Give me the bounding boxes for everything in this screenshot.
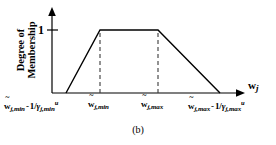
y-axis-title-line1: Degree of: [15, 21, 26, 78]
x-axis-arrowhead: [236, 89, 245, 97]
tilde-w-symbol: ~w: [88, 99, 94, 109]
subscript-jmin: j,min: [94, 103, 108, 111]
membership-function-curve: [66, 30, 220, 93]
x-axis-variable-base: w: [248, 79, 256, 91]
gamma-superscript-u: u: [241, 99, 245, 106]
subscript-jmax: j,max: [147, 103, 163, 111]
one-over: 1/: [215, 101, 222, 111]
y-axis-tick-label-one: 1: [38, 23, 44, 38]
x-tick-label-left-shoulder: ~wj,min: [88, 99, 109, 111]
tilde-accent-icon: ~: [188, 95, 194, 101]
y-axis-title-line2: Membership: [26, 21, 37, 78]
figure-caption: (b): [0, 124, 276, 135]
subscript-jmin: j,min: [10, 105, 24, 113]
subscript-jmax: j,max: [194, 105, 210, 113]
y-axis-title: Degree of Membership: [6, 6, 46, 94]
gamma-superscript-u: u: [55, 99, 59, 106]
tilde-accent-icon: ~: [4, 95, 10, 101]
x-axis-tick-labels: ~wj,min-1/γj,minu ~wj,min ~wj,max ~wj,ma…: [0, 99, 276, 121]
tilde-accent-icon: ~: [141, 93, 147, 99]
tilde-w-symbol: ~w: [188, 101, 194, 111]
gamma-subscript-jmax: j,max: [225, 105, 241, 113]
x-axis-variable-label: wj: [248, 79, 258, 93]
x-tick-label-right-shoulder: ~wj,max: [141, 99, 163, 111]
gamma-subscript-jmin: j,min: [40, 105, 54, 113]
tilde-w-symbol: ~w: [141, 99, 147, 109]
x-tick-label-right-foot: ~wj,max-1/γj,maxu: [188, 99, 245, 113]
figure-container: Degree of Membership 1 wj ~wj,min-1/γj,m…: [0, 0, 276, 145]
tilde-accent-icon: ~: [88, 93, 94, 99]
tilde-w-symbol: ~w: [4, 101, 10, 111]
y-axis-arrowhead: [48, 7, 56, 16]
x-tick-label-left-foot: ~wj,min-1/γj,minu: [4, 99, 58, 113]
one-over: 1/: [30, 101, 37, 111]
x-axis-variable-subscript: j: [256, 83, 259, 93]
